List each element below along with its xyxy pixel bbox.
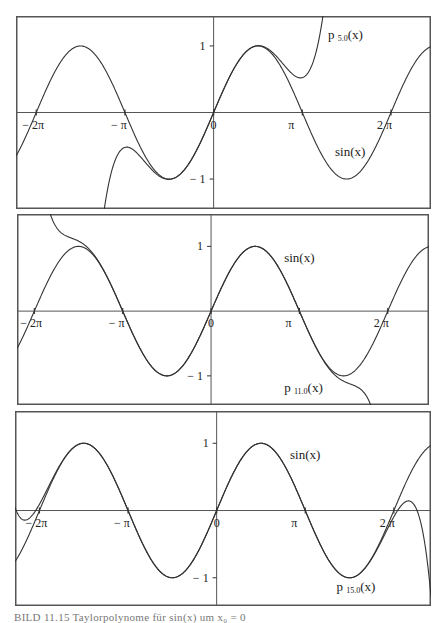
series-label: sin(x) [284, 250, 314, 265]
x-tick-label: − π [114, 516, 130, 530]
plot-frame [16, 412, 431, 606]
x-tick-label: 0 [214, 516, 220, 530]
series-p150x-line [15, 443, 431, 597]
x-tick-label: 2 π [374, 316, 389, 330]
x-tick-label: π [285, 316, 291, 330]
y-tick-label: − 1 [187, 369, 203, 383]
x-tick-label: − π [111, 118, 127, 132]
series-label: sin(x) [290, 447, 320, 462]
x-tick-label: π [291, 516, 297, 530]
series-label: p 11.0(x) [284, 380, 323, 396]
series-p110x-line [17, 214, 429, 405]
y-tick-label: − 1 [193, 571, 209, 585]
x-tick-label: π [288, 118, 294, 132]
y-tick-label: 1 [197, 239, 203, 253]
plot-frame [18, 215, 429, 405]
chart-p5-vs-sin: − 2π− π0π2 π1− 1sin(x)p 5.0(x) [16, 16, 431, 209]
chart-panel-p11: − 2π− π0π2 π1− 1sin(x)p 11.0(x) [17, 214, 429, 409]
y-tick-label: − 1 [190, 172, 206, 186]
x-tick-label: 0 [211, 118, 217, 132]
x-tick-label: 2 π [377, 118, 392, 132]
series-label: sin(x) [335, 144, 365, 159]
chart-p15-vs-sin: − 2π− π0π2 π1− 1sin(x)p 15.0(x) [15, 411, 431, 606]
y-tick-label: 1 [200, 39, 206, 53]
series-label: p 5.0(x) [328, 27, 363, 43]
chart-p11-vs-sin: − 2π− π0π2 π1− 1sin(x)p 11.0(x) [17, 214, 429, 405]
chart-panel-p5: − 2π− π0π2 π1− 1sin(x)p 5.0(x) [16, 16, 431, 213]
figure-caption: BILD 11.15 Taylorpolynome für sin(x) um … [14, 611, 246, 623]
y-tick-label: 1 [203, 436, 209, 450]
x-tick-label: 0 [208, 316, 214, 330]
chart-panel-p15: − 2π− π0π2 π1− 1sin(x)p 15.0(x) [15, 411, 431, 610]
series-label: p 15.0(x) [337, 579, 376, 595]
x-tick-label: − π [109, 316, 125, 330]
x-tick-label: 2 π [380, 516, 395, 530]
